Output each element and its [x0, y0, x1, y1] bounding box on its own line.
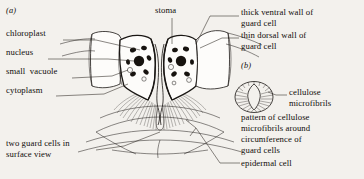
label-thick-ventral-1: thick ventral wall of — [241, 8, 313, 17]
label-stoma: stoma — [155, 6, 176, 15]
label-pattern-3: circumference of — [241, 135, 302, 144]
small-vacuole-shape — [168, 64, 173, 69]
label-small-vacuole: small vacuole — [6, 67, 58, 76]
left-guard-cell — [119, 35, 156, 100]
label-pattern-4: guard cells — [241, 146, 280, 155]
small-vacuole-shape — [127, 67, 132, 72]
small-vacuole-shape — [142, 77, 146, 81]
label-thick-ventral-2: guard cell — [241, 19, 277, 28]
right-guard-cell — [164, 35, 199, 100]
guard-cell-ring-outer — [235, 82, 273, 113]
label-chloroplast: chloroplast — [6, 29, 46, 38]
nucleus-shape — [176, 56, 186, 66]
small-vacuole-shape — [172, 81, 176, 85]
nucleus-shape — [134, 56, 144, 66]
label-thin-dorsal-2: guard cell — [241, 42, 277, 51]
panel-a-label: (a) — [6, 6, 16, 15]
label-cellulose-1: cellulose — [289, 88, 321, 97]
panel-b-drawing — [235, 82, 273, 113]
stomatal-pore — [155, 44, 164, 130]
leader-two-guard-cells — [96, 132, 160, 150]
pore-shape — [248, 84, 261, 110]
leader-cellulose-microfibrils — [268, 92, 287, 95]
label-thin-dorsal-1: thin dorsal wall of — [241, 31, 306, 40]
microfibril-striations-section — [114, 94, 206, 130]
label-cytoplasm: cytoplasm — [6, 86, 43, 95]
label-pattern-2: microfibrils around — [241, 124, 310, 133]
label-two-guard-cells-1: two guard cells in — [6, 139, 70, 148]
label-nucleus: nucleus — [6, 48, 33, 57]
label-epidermal-cell: epidermal cell — [241, 159, 292, 168]
label-pattern-1: pattern of cellulose — [241, 113, 310, 122]
label-two-guard-cells-2: surface view — [6, 150, 51, 159]
label-cellulose-2: microfibrils — [289, 99, 331, 108]
panel-b-label: (b) — [241, 61, 251, 70]
small-vacuole-shape — [187, 78, 192, 83]
